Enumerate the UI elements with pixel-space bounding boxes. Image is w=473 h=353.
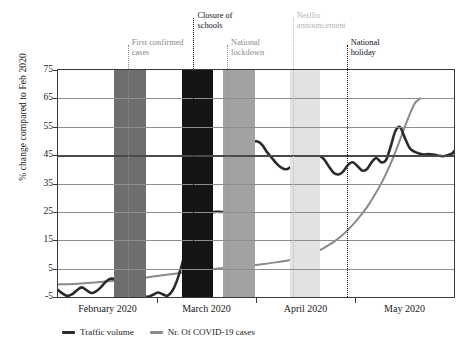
gridline-65 [58, 98, 454, 99]
y-axis-title: % change compared to Feb 2020 [18, 12, 28, 222]
event-stem-netflix-announcement [293, 18, 294, 69]
gridline-35 [58, 184, 454, 185]
event-label-closure-of-schools: Closure of schools [197, 11, 232, 31]
event-line-national-lockdown [227, 70, 228, 297]
plot-area [57, 69, 455, 298]
x-tick-label-3: May 2020 [345, 303, 465, 314]
covid-traffic-chart: % change compared to Feb 2020 -551525354… [0, 0, 473, 353]
plot-inner [58, 70, 454, 297]
x-tick-mark-2 [355, 298, 356, 303]
legend: Traffic volume Nr. Of COVID-19 cases [62, 327, 255, 337]
event-stem-national-lockdown [227, 45, 228, 69]
gridline-15 [58, 240, 454, 241]
event-stem-national-holiday [347, 45, 348, 69]
legend-item-traffic-volume: Traffic volume [62, 327, 134, 337]
event-stem-closure-of-schools [193, 18, 194, 69]
event-line-national-holiday [347, 70, 348, 297]
gridline-25 [58, 212, 454, 213]
gridline-45 [58, 155, 454, 157]
y-tick-35: 35 [29, 178, 53, 188]
event-line-netflix-announcement [293, 70, 294, 297]
legend-label-traffic-volume: Traffic volume [80, 327, 134, 337]
legend-swatch-traffic-volume [62, 331, 75, 334]
legend-item-covid-cases: Nr. Of COVID-19 cases [150, 327, 255, 337]
event-label-national-holiday: National holiday [351, 38, 380, 58]
event-line-first-confirmed-cases [128, 70, 129, 297]
gridline-55 [58, 127, 454, 128]
event-label-national-lockdown: National lockdown [231, 38, 264, 58]
event-label-first-confirmed-cases: First confirmed cases [132, 38, 184, 58]
x-tick-mark-1 [256, 298, 257, 303]
legend-label-covid-cases: Nr. Of COVID-19 cases [168, 327, 255, 337]
gridline-5 [58, 269, 454, 270]
y-tick--5: -5 [29, 291, 53, 301]
y-tick-55: 55 [29, 121, 53, 131]
event-stem-first-confirmed-cases [128, 45, 129, 69]
legend-swatch-covid-cases [150, 331, 163, 334]
event-line-closure-of-schools [193, 70, 194, 297]
y-tick-25: 25 [29, 206, 53, 216]
y-tick-15: 15 [29, 234, 53, 244]
y-tick-45: 45 [29, 149, 53, 159]
event-label-netflix-announcement: Netflix announcement [297, 11, 346, 31]
x-tick-mark-0 [157, 298, 158, 303]
y-tick-5: 5 [29, 263, 53, 273]
y-tick-75: 75 [29, 64, 53, 74]
y-tick-65: 65 [29, 92, 53, 102]
